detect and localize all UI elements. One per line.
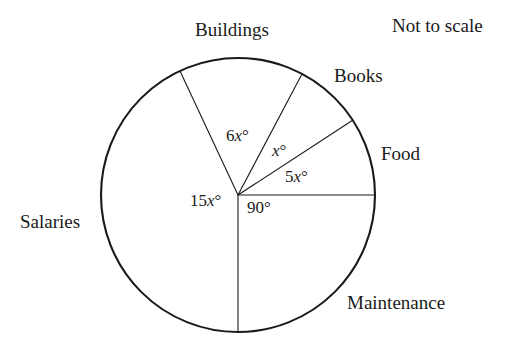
degree-symbol: ° — [301, 167, 308, 186]
angle-label-food: 5x° — [285, 168, 308, 185]
slice-label-maintenance: Maintenance — [347, 293, 445, 312]
angle-coefficient: 5 — [285, 167, 294, 186]
degree-symbol: ° — [215, 191, 222, 210]
not-to-scale-note: Not to scale — [392, 16, 483, 35]
slice-label-books: Books — [334, 66, 383, 85]
angle-label-salaries: 15x° — [190, 192, 221, 209]
degree-symbol: ° — [242, 126, 249, 145]
angle-label-buildings: 6x° — [226, 127, 249, 144]
slice-label-salaries: Salaries — [20, 212, 80, 231]
angle-label-books: x° — [272, 142, 286, 159]
slice-label-buildings: Buildings — [195, 20, 269, 39]
angle-label-maintenance: 90° — [247, 199, 271, 216]
angle-variable: x — [207, 191, 215, 210]
angle-variable: x — [272, 141, 280, 160]
degree-symbol: ° — [280, 141, 287, 160]
pie-chart-figure: Buildings Books Food Maintenance Salarie… — [0, 0, 519, 360]
angle-coefficient: 15 — [190, 191, 207, 210]
angle-variable: x — [235, 126, 243, 145]
angle-variable: x — [294, 167, 302, 186]
slice-label-food: Food — [381, 144, 420, 163]
angle-coefficient: 6 — [226, 126, 235, 145]
